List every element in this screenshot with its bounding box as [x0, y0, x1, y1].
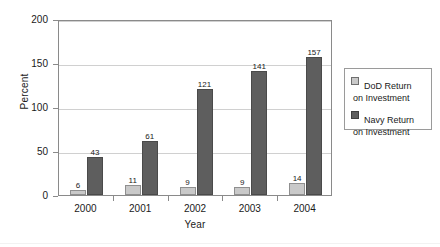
bar	[70, 190, 86, 195]
x-tick-mark	[277, 196, 278, 201]
bar	[251, 71, 267, 195]
legend-label-line2: on Investment	[353, 93, 431, 104]
legend-item: Navy Returnon Investment	[351, 109, 431, 138]
legend-label-line1: Navy Return	[364, 115, 414, 125]
gridline	[59, 109, 331, 110]
bar-chart-figure: Percent Year 050100150200 20002001200220…	[0, 0, 440, 247]
legend-item-label: DoD Returnon Investment	[351, 81, 431, 104]
bar-value-label: 61	[130, 132, 170, 141]
x-axis-title: Year	[58, 219, 332, 230]
bar-value-label: 121	[185, 80, 225, 89]
bar	[289, 183, 305, 195]
y-tick-label: 200	[31, 14, 48, 26]
y-tick: 100	[0, 102, 58, 114]
bar	[180, 187, 196, 195]
dod-swatch	[351, 77, 359, 85]
x-tick-mark	[113, 196, 114, 201]
y-tick: 200	[0, 14, 58, 26]
y-tick-label: 50	[37, 146, 48, 158]
x-category-label: 2002	[167, 202, 223, 215]
x-category-label: 2000	[57, 202, 113, 215]
chart-legend: DoD Returnon InvestmentNavy Returnon Inv…	[344, 68, 432, 130]
legend-item: DoD Returnon Investment	[351, 75, 431, 104]
gridline	[59, 21, 331, 22]
legend-item-label: Navy Returnon Investment	[351, 115, 431, 138]
bar-value-label: 141	[239, 62, 279, 71]
bar	[306, 57, 322, 195]
x-category-label: 2004	[277, 202, 333, 215]
bar	[142, 141, 158, 195]
navy-swatch	[351, 111, 359, 119]
bar	[87, 157, 103, 195]
plot-area: 64311619121914114157	[58, 20, 332, 196]
x-tick-mark	[168, 196, 169, 201]
bar-value-label: 43	[75, 148, 115, 157]
gridline	[59, 65, 331, 66]
legend-label-line1: DoD Return	[364, 81, 412, 91]
scan-artifact-line	[0, 243, 440, 244]
legend-label-line2: on Investment	[353, 127, 431, 138]
y-tick-label: 100	[31, 102, 48, 114]
x-tick-mark	[222, 196, 223, 201]
bar	[125, 185, 141, 195]
y-tick: 0	[0, 190, 58, 202]
y-tick-label: 0	[42, 190, 48, 202]
y-axis-title: Percent	[19, 42, 30, 142]
y-tick: 50	[0, 146, 58, 158]
x-category-label: 2003	[222, 202, 278, 215]
x-category-label: 2001	[112, 202, 168, 215]
bar	[197, 89, 213, 195]
y-tick: 150	[0, 58, 58, 70]
bar	[234, 187, 250, 195]
bar-value-label: 157	[294, 48, 334, 57]
y-tick-label: 150	[31, 58, 48, 70]
